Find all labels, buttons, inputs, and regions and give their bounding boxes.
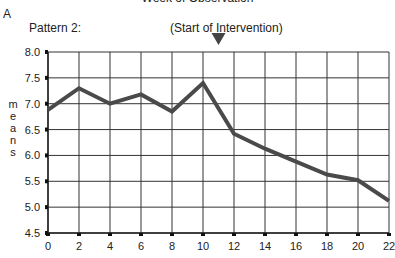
y-tick-label: 7.5 [25, 72, 40, 84]
x-tick-mark [108, 233, 112, 236]
y-tick-mark [45, 50, 48, 54]
y-tick-mark [45, 153, 48, 157]
x-tick-label: 18 [321, 240, 333, 252]
x-tick-mark [232, 233, 236, 236]
y-tick-mark [45, 76, 48, 80]
y-tick-mark [45, 128, 48, 132]
x-tick-mark [170, 233, 174, 236]
y-tick-label: 7.0 [25, 98, 40, 110]
x-tick-label: 8 [169, 240, 175, 252]
y-tick-mark [45, 102, 48, 106]
y-tick-label: 6.5 [25, 124, 40, 136]
x-tick-label: 16 [290, 240, 302, 252]
line-chart: 4.55.05.56.06.57.07.58.0 024681012141618… [0, 0, 395, 258]
x-tick-label: 4 [107, 240, 113, 252]
x-tick-label: 2 [76, 240, 82, 252]
y-tick-mark [45, 205, 48, 209]
y-tick-mark [45, 179, 48, 183]
x-tick-label: 20 [352, 240, 364, 252]
x-tick-mark [356, 233, 360, 236]
x-tick-mark [387, 233, 391, 236]
x-tick-mark [46, 233, 50, 236]
y-tick-label: 4.5 [25, 227, 40, 239]
intervention-marker-icon [212, 33, 226, 45]
y-tick-label: 5.0 [25, 201, 40, 213]
x-tick-mark [325, 233, 329, 236]
x-axis-ticks: 0246810121416182022 [45, 233, 395, 252]
x-tick-mark [263, 233, 267, 236]
x-tick-mark [77, 233, 81, 236]
x-tick-label: 0 [45, 240, 51, 252]
x-tick-mark [294, 233, 298, 236]
x-tick-label: 12 [228, 240, 240, 252]
y-tick-label: 5.5 [25, 175, 40, 187]
x-tick-mark [139, 233, 143, 236]
y-tick-label: 6.0 [25, 149, 40, 161]
data-line [48, 83, 389, 201]
y-axis-ticks: 4.55.05.56.06.57.07.58.0 [25, 46, 48, 239]
x-tick-label: 6 [138, 240, 144, 252]
y-tick-label: 8.0 [25, 46, 40, 58]
x-tick-label: 14 [259, 240, 271, 252]
x-tick-label: 22 [383, 240, 395, 252]
x-tick-label: 10 [197, 240, 209, 252]
x-tick-mark [201, 233, 205, 236]
grid [48, 52, 389, 233]
